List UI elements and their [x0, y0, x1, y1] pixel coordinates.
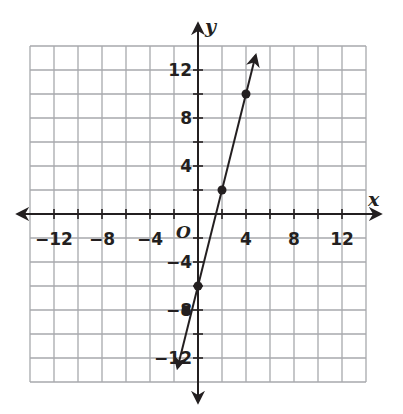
data-point	[182, 306, 191, 315]
y-tick-label: −4	[166, 252, 192, 272]
y-axis-label: y	[204, 15, 218, 37]
coordinate-plane: −12−8−448121284−4−8−12 x y O	[0, 0, 403, 414]
y-tick-label: 12	[168, 60, 192, 80]
x-axis-label: x	[367, 188, 380, 210]
plotted-line	[178, 56, 256, 368]
axes	[18, 24, 380, 402]
y-tick-label: −12	[154, 348, 192, 368]
x-tick-label: −4	[137, 229, 163, 249]
origin-label: O	[176, 222, 191, 242]
x-tick-label: 12	[330, 229, 354, 249]
y-tick-label: 4	[180, 156, 192, 176]
x-tick-label: −12	[35, 229, 73, 249]
x-tick-label: 8	[288, 229, 300, 249]
data-series	[178, 56, 256, 368]
data-point	[218, 186, 227, 195]
data-point	[194, 282, 203, 291]
data-point	[242, 90, 251, 99]
y-tick-label: 8	[180, 108, 192, 128]
x-tick-label: 4	[240, 229, 252, 249]
x-tick-label: −8	[89, 229, 115, 249]
